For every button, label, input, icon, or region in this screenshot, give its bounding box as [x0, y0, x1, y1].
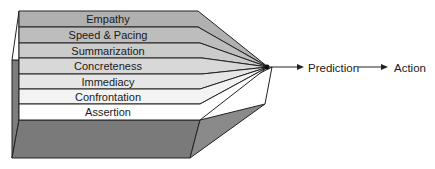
- label-concreteness: Concreteness: [74, 60, 142, 72]
- label-empathy: Empathy: [86, 13, 130, 25]
- label-speed-pacing: Speed & Pacing: [69, 29, 148, 41]
- left-bevel: [12, 11, 19, 60]
- label-summarization: Summarization: [71, 45, 144, 57]
- label-action: Action: [394, 62, 426, 74]
- arrowhead-icon: [297, 64, 304, 70]
- arrowhead-icon: [381, 64, 388, 70]
- label-confrontation: Confrontation: [75, 91, 141, 103]
- label-assertion: Assertion: [85, 106, 131, 118]
- skills-funnel-diagram: Empathy Speed & Pacing Summarization Con…: [0, 0, 435, 169]
- base-slab: [12, 120, 200, 158]
- label-prediction: Prediction: [308, 62, 359, 74]
- label-immediacy: Immediacy: [81, 76, 135, 88]
